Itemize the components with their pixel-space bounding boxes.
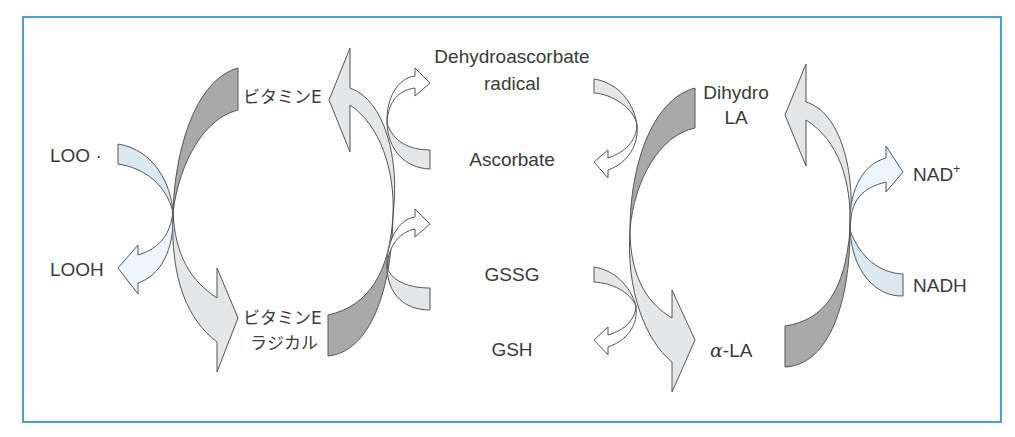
looh-arrow — [118, 212, 173, 294]
dihydro-la-label-line1: Dihydro — [703, 83, 768, 104]
gssg-reduction-band — [594, 267, 636, 306]
dihydro-la-label-line2: LA — [724, 108, 747, 129]
nad-plus-label: NAD+ — [913, 163, 960, 186]
gsh-label: GSH — [491, 340, 532, 361]
nad-plus-arrow — [850, 146, 903, 230]
vitamin-e-radical-arrow — [173, 212, 238, 372]
alpha-la-label: α-LA — [710, 340, 752, 362]
vitamin-e-label: ビタミンE — [243, 88, 322, 107]
loo-radical-label: LOO · — [50, 146, 102, 167]
vitamin-e-radical-dark-band — [328, 215, 393, 356]
vitamin-e-regeneration-arrow — [329, 48, 395, 215]
gsh-arrow — [594, 306, 636, 355]
loo-radical-band — [118, 144, 173, 212]
nad-text: NAD — [913, 164, 953, 185]
vitamin-e-dark-band — [173, 68, 238, 212]
gssg-label: GSSG — [485, 265, 540, 286]
dihydro-la-dark-band — [630, 88, 695, 230]
nadh-label: NADH — [913, 276, 967, 297]
looh-label: LOOH — [50, 260, 104, 281]
dehydroascorbate-label-line2: radical — [484, 74, 540, 95]
dehydroascorbate-reduction-band — [594, 79, 637, 125]
ascorbate-label: Ascorbate — [469, 150, 555, 171]
ascorbate-arrow — [594, 125, 637, 178]
vitamin-e-radical-label-line2: ラジカル — [250, 334, 318, 353]
alpha-la-dark-band — [785, 230, 850, 367]
alpha-la-arrow — [629, 230, 695, 392]
gsh-band — [387, 268, 430, 310]
alpha-la-suffix: -LA — [723, 340, 753, 361]
dehydroascorbate-arrow — [387, 68, 430, 123]
nadh-band — [850, 230, 903, 296]
vitamin-e-radical-label-line1: ビタミンE — [243, 309, 322, 328]
plus-superscript: + — [953, 162, 960, 176]
dehydroascorbate-label-line1: Dehydroascorbate — [434, 47, 589, 68]
alpha-symbol: α — [710, 339, 723, 361]
dihydro-la-regeneration-arrow — [785, 64, 851, 230]
